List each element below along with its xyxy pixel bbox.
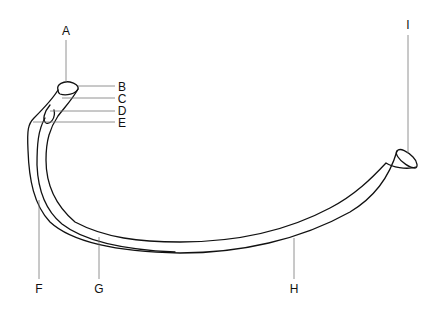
label-a: A: [62, 25, 70, 37]
rib-illustration: [0, 0, 438, 310]
sternal-end: [396, 150, 417, 168]
label-i: I: [406, 19, 409, 31]
inner-border: [46, 89, 416, 242]
rib-diagram: A B C D E F G H I: [0, 0, 438, 310]
label-g: G: [94, 283, 103, 295]
costal-groove: [37, 118, 175, 252]
outer-border: [28, 90, 397, 253]
rib-outline: [28, 82, 417, 253]
label-h: H: [290, 283, 299, 295]
label-e: E: [118, 117, 126, 129]
label-f: F: [35, 283, 42, 295]
tubercle: [44, 105, 54, 123]
